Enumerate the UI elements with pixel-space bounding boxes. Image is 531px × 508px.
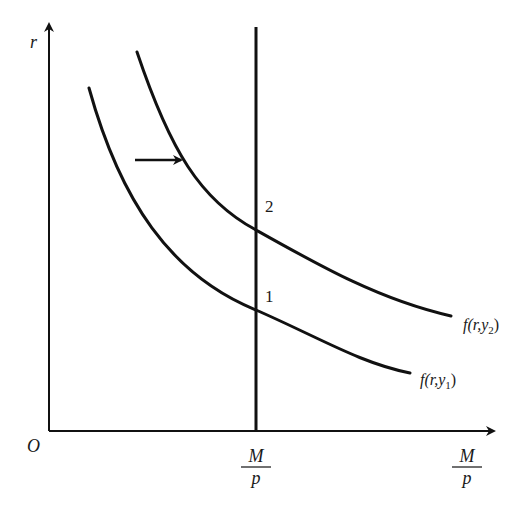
origin-label: O <box>27 436 40 456</box>
y-axis-label: r <box>30 32 38 52</box>
curve-label-y1-suffix: ) <box>451 371 456 389</box>
curve-label-y2-prefix: f(r,y <box>463 316 489 334</box>
point-label-2: 2 <box>265 197 274 216</box>
x-axis-label-denominator: p <box>461 468 472 488</box>
curve-label-y1: f(r,y1) <box>420 371 456 391</box>
supply-label-numerator: M <box>248 446 265 466</box>
point-label-1: 1 <box>265 287 274 306</box>
money-demand-diagram: r O M p M p 2 1 f(r,y2) f(r,y1) <box>0 0 531 508</box>
x-axis-label-numerator: M <box>459 446 476 466</box>
curve-label-y1-prefix: f(r,y <box>420 371 446 389</box>
demand-curve-y2 <box>137 52 451 316</box>
curve-label-y2-suffix: ) <box>494 316 499 334</box>
demand-curve-y1 <box>89 88 410 373</box>
curve-label-y2: f(r,y2) <box>463 316 499 336</box>
supply-label-denominator: p <box>250 468 261 488</box>
